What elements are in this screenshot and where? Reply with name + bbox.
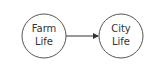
node-city-life: City Life xyxy=(99,14,143,58)
farm-life-label-line1: Farm xyxy=(32,23,57,34)
diagram-canvas: Farm Life City Life xyxy=(0,0,162,64)
city-life-label-line1: City xyxy=(111,23,131,34)
farm-life-label-line2: Life xyxy=(35,36,53,47)
node-farm-life: Farm Life xyxy=(22,14,66,58)
city-life-label-line2: Life xyxy=(112,36,130,47)
